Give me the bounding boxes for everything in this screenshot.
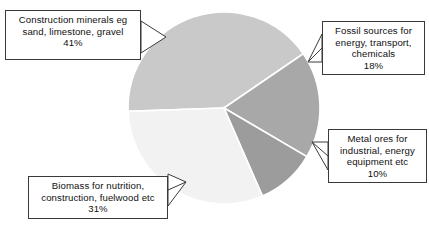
callout-metal-line-2: industrial, energy	[333, 145, 422, 157]
callout-metal-value: 10%	[333, 168, 422, 180]
callout-construction-line-2: sand, limestone, gravel	[10, 26, 136, 38]
callout-biomass-value: 31%	[33, 203, 163, 215]
callout-fossil-value: 18%	[327, 60, 420, 72]
callout-metal-line-3: equipment etc	[333, 156, 422, 168]
callout-biomass: Biomass for nutrition, construction, fue…	[28, 176, 168, 219]
callout-biomass-line-2: construction, fuelwood etc	[33, 192, 163, 204]
callout-fossil-line-1: Fossil sources for	[327, 25, 420, 37]
callout-metal-ores: Metal ores for industrial, energy equipm…	[328, 129, 427, 183]
callout-construction-line-1: Construction minerals eg	[10, 14, 136, 26]
callout-construction-value: 41%	[10, 37, 136, 49]
callout-fossil-line-2: energy, transport,	[327, 37, 420, 49]
callout-fossil-line-3: chemicals	[327, 48, 420, 60]
callout-fossil-sources: Fossil sources for energy, transport, ch…	[322, 21, 425, 75]
pie-chart-figure: Construction minerals eg sand, limestone…	[0, 0, 429, 232]
callout-metal-line-1: Metal ores for	[333, 133, 422, 145]
callout-biomass-line-1: Biomass for nutrition,	[33, 180, 163, 192]
callout-construction-minerals: Construction minerals eg sand, limestone…	[5, 10, 141, 60]
